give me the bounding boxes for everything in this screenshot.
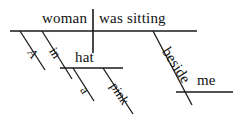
sentence-diagram: woman was sitting A in hat a pink beside… — [0, 0, 238, 117]
label-subject: woman — [42, 11, 87, 26]
label-predicate: was sitting — [99, 11, 166, 26]
label-object-me: me — [197, 73, 216, 88]
label-object-hat: hat — [75, 50, 94, 65]
